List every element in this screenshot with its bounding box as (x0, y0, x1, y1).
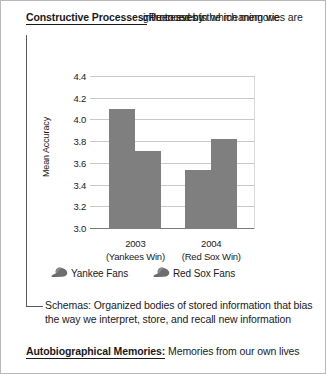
chart-legend: Yankee FansRed Sox Fans (41, 267, 271, 285)
term-schemas: Schemas: (45, 299, 91, 311)
y-axis-tick-label: 3.2 (73, 201, 86, 212)
bracket-connector-elbow (26, 306, 43, 307)
x-axis-category: 2004 (161, 238, 261, 251)
diagram-page: Constructive Processes:Processes in whic… (0, 0, 326, 374)
y-axis-tick-label: 3.4 (73, 179, 86, 190)
x-axis-labels: 2003(Yankees Win)2004(Red Sox Win) (90, 232, 255, 260)
bar (211, 139, 237, 229)
y-axis-label: Mean Accuracy (39, 77, 53, 217)
definition-autobiographical-memories: Autobiographical Memories: Memories from… (26, 345, 322, 359)
y-axis-tick-label: 3.0 (73, 223, 86, 234)
y-axis-label-text: Mean Accuracy (41, 117, 51, 177)
bar (109, 109, 135, 230)
y-axis-tick-label: 4.4 (73, 71, 86, 82)
bar-series-container (90, 77, 255, 229)
definition-constructive-processes: Constructive Processes:Processes in whic… (26, 11, 318, 25)
y-axis-tick-label: 3.6 (73, 157, 86, 168)
y-axis-tick-label: 4.2 (73, 92, 86, 103)
y-axis-tick-label: 3.8 (73, 136, 86, 147)
baseball-cap-icon (153, 267, 170, 279)
legend-item-label: Red Sox Fans (173, 268, 235, 279)
bracket-connector-line (26, 35, 27, 307)
bar-chart: Mean Accuracy 3.03.23.43.63.84.04.24.4 2… (41, 77, 261, 262)
definition-autobiographical-body: Memories from our own lives (165, 345, 299, 357)
term-autobiographical-memories: Autobiographical Memories: (26, 345, 165, 359)
definition-schemas: Schemas: Organized bodies of stored info… (45, 299, 315, 326)
bar (135, 151, 161, 229)
y-axis-tick-label: 4.0 (73, 114, 86, 125)
legend-item: Red Sox Fans (153, 267, 235, 279)
plot-area: 3.03.23.43.63.84.04.24.4 (90, 77, 255, 229)
term-constructive-processes: Constructive Processes: (26, 11, 147, 25)
baseball-cap-icon (51, 267, 68, 279)
legend-item-label: Yankee Fans (71, 268, 128, 279)
bar (185, 170, 211, 229)
legend-item: Yankee Fans (51, 267, 128, 279)
x-axis-group-label: 2004(Red Sox Win) (161, 238, 261, 263)
x-axis-category-sublabel: (Red Sox Win) (161, 251, 261, 264)
